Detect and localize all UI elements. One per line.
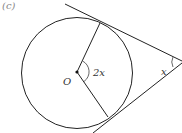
external-angle-label: x [161, 66, 167, 77]
geometry-diagram: (c) O 2x x [0, 0, 182, 133]
lower-radius [77, 72, 108, 117]
upper-tangent-line [65, 4, 182, 61]
center-angle-arc [83, 61, 90, 82]
center-label: O [63, 76, 71, 87]
lower-tangent-line [93, 63, 182, 133]
external-angle-arc [172, 57, 173, 67]
center-angle-label: 2x [92, 67, 105, 78]
part-label: (c) [2, 0, 16, 11]
upper-radius [77, 23, 100, 72]
center-point [75, 70, 78, 73]
